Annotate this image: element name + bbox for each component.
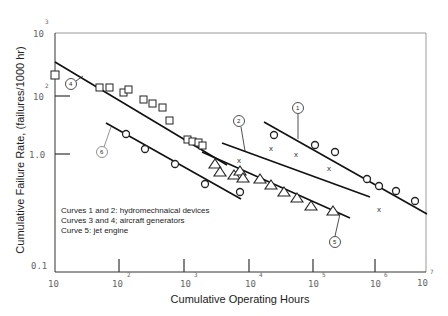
svg-text:10: 10 bbox=[308, 279, 319, 289]
svg-text:2: 2 bbox=[45, 82, 49, 89]
y-tick-100: 10 bbox=[33, 92, 44, 102]
svg-text:5: 5 bbox=[322, 271, 326, 278]
note-line-1: Curves 1 and 2: hydromechnaical devices bbox=[61, 206, 210, 215]
x-tick-labels: 10 10 2 10 3 10 4 10 5 10 6 10 7 bbox=[48, 268, 434, 289]
svg-text:x: x bbox=[377, 205, 381, 214]
svg-text:7: 7 bbox=[430, 268, 434, 275]
y-tick-1000: 10 bbox=[33, 29, 44, 39]
y-tick-0.1: 0.1 bbox=[31, 261, 47, 271]
svg-text:6: 6 bbox=[384, 271, 388, 278]
y-tick-1: 1.0 bbox=[29, 150, 45, 160]
note-line-3: Curve 5: jet engine bbox=[61, 226, 129, 235]
x-axis-title: Cumulative Operating Hours bbox=[171, 293, 310, 305]
svg-text:10: 10 bbox=[417, 278, 428, 288]
svg-text:x: x bbox=[237, 156, 241, 165]
svg-text:10: 10 bbox=[370, 279, 381, 289]
y-tick-labels: 10 3 10 2 1.0 0.1 bbox=[29, 18, 49, 271]
plot-frame bbox=[55, 33, 426, 272]
svg-text:2: 2 bbox=[127, 271, 131, 278]
svg-text:10: 10 bbox=[48, 279, 59, 289]
svg-text:3: 3 bbox=[45, 18, 49, 25]
svg-text:10: 10 bbox=[180, 279, 191, 289]
y-axis-title: Cumulative Failure Rate, (failures/1000 … bbox=[14, 46, 26, 253]
failure-rate-chart: 10 3 10 2 1.0 0.1 10 10 2 10 3 10 4 10 5… bbox=[0, 0, 448, 316]
curve-notes: Curves 1 and 2: hydromechnaical devices … bbox=[61, 206, 210, 235]
svg-text:10: 10 bbox=[245, 279, 256, 289]
svg-text:x: x bbox=[327, 164, 331, 173]
note-line-2: Curves 3 and 4; aircraft generators bbox=[61, 216, 185, 225]
svg-text:x: x bbox=[269, 144, 273, 153]
svg-text:3: 3 bbox=[194, 271, 198, 278]
svg-text:10: 10 bbox=[112, 279, 123, 289]
markers-triangles bbox=[209, 159, 339, 215]
svg-text:4: 4 bbox=[259, 271, 263, 278]
svg-text:x: x bbox=[294, 150, 298, 159]
